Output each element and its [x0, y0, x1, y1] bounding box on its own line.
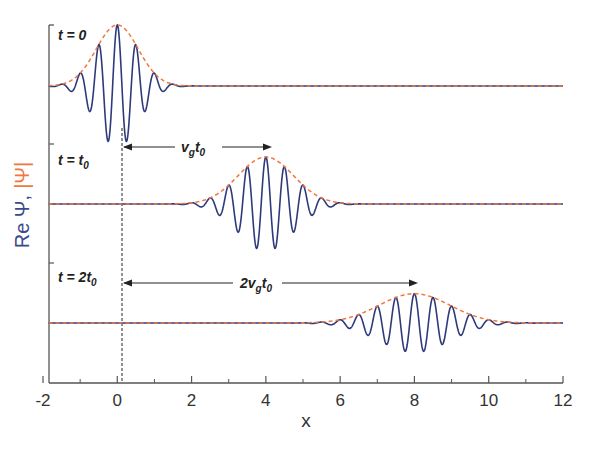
- x-tick-label: 4: [261, 391, 270, 410]
- arrow-2vg-t0: 2vgt0: [123, 275, 418, 294]
- wave-packet-chart: -2024681012 t = 0 t = t0 t = 2t0 vgt0 2v…: [0, 0, 592, 451]
- x-axis-label: x: [301, 410, 311, 431]
- x-tick-label: 10: [479, 391, 498, 410]
- envelope-abs-psi: [49, 25, 563, 86]
- panel-label-t2: t = 2t0: [58, 269, 97, 288]
- wave-re-psi: [49, 25, 563, 141]
- x-ticks: [43, 376, 563, 383]
- arrow-vg-t0: vgt0: [123, 139, 272, 158]
- wave-packets: [49, 25, 563, 351]
- x-tick-label: 8: [410, 391, 419, 410]
- svg-text:Re Ψ,|Ψ|: Re Ψ,|Ψ|: [11, 162, 33, 249]
- x-tick-label: 12: [554, 391, 573, 410]
- x-tick-label: 6: [335, 391, 344, 410]
- x-tick-label: 0: [113, 391, 122, 410]
- x-tick-label: -2: [35, 391, 50, 410]
- x-tick-labels: -2024681012: [35, 391, 572, 410]
- axes: -2024681012: [35, 25, 572, 410]
- svg-text:2vgt0: 2vgt0: [239, 275, 272, 294]
- svg-text:vgt0: vgt0: [181, 139, 206, 158]
- x-tick-label: 2: [187, 391, 196, 410]
- wave-re-psi: [49, 157, 563, 248]
- panel-label-t0: t = 0: [58, 27, 87, 43]
- panel-label-t1: t = t0: [58, 152, 89, 171]
- envelope-abs-psi: [49, 294, 563, 323]
- y-axis-label: Re Ψ,|Ψ|: [11, 162, 33, 249]
